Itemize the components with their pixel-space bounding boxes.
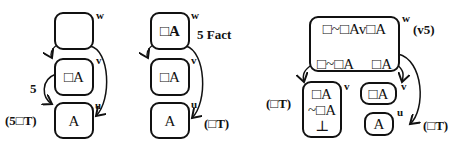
rule-annotation: (5□T)	[5, 113, 37, 129]
world-formula: □A	[312, 86, 332, 102]
world-label: v	[191, 54, 197, 66]
world-formula: □A	[160, 69, 180, 85]
branch-formula: □A	[372, 56, 392, 72]
world-label: u	[191, 98, 197, 110]
world-formula: □~□Av□A	[323, 21, 386, 37]
world-formula: □A	[64, 69, 84, 85]
rule-annotation: (□T)	[423, 118, 448, 134]
world-v-box: □A	[360, 82, 397, 105]
fact-annotation: 5 Fact	[197, 27, 231, 43]
rule-annotation: (□T)	[266, 96, 291, 112]
world-formula: A	[374, 116, 385, 132]
world-label: v	[344, 80, 350, 92]
world-formula: □A	[160, 23, 180, 39]
world-formula: A	[69, 113, 80, 129]
world-w-box	[54, 12, 94, 50]
world-label: w	[96, 9, 104, 21]
world-u-box: A	[54, 102, 94, 139]
world-v-box: □A	[54, 58, 94, 96]
world-label: u	[397, 106, 403, 118]
world-label: w	[191, 9, 199, 21]
world-formula: ⊥	[315, 118, 329, 134]
world-u-box: A	[364, 112, 394, 136]
rule-annotation: (v5)	[413, 22, 435, 38]
world-v-box: □A	[150, 58, 190, 96]
branch-formula: □~□A	[317, 56, 354, 72]
world-label: v	[401, 80, 407, 92]
world-label: u	[95, 99, 101, 111]
world-label: w	[402, 12, 410, 24]
world-w-box: □~□Av□A □~□A □A	[309, 16, 400, 72]
world-u-box: A	[150, 102, 190, 139]
world-formula: □A	[369, 86, 389, 102]
world-formula: A	[165, 113, 176, 129]
world-w-box: □A	[150, 12, 190, 50]
world-formula: ~□A	[308, 102, 336, 118]
world-label: v	[96, 54, 102, 66]
arrow-label: 5	[30, 81, 37, 97]
world-v-box: □A ~□A ⊥	[302, 81, 342, 138]
rule-annotation: (□T)	[204, 116, 229, 132]
